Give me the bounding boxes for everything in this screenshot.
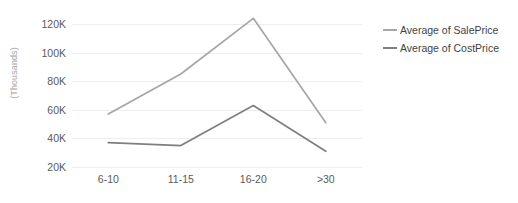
plot-area: (Thousands) 120K100K80K60K40K20K 6-1011-… — [0, 0, 370, 203]
series-line — [108, 106, 325, 152]
x-axis-tick-label: 16-20 — [240, 173, 267, 185]
legend-swatch-saleprice — [383, 29, 397, 31]
line-chart: (Thousands) 120K100K80K60K40K20K 6-1011-… — [0, 0, 518, 203]
legend-label-costprice: Average of CostPrice — [400, 42, 499, 54]
x-axis-tick-label: 11-15 — [168, 173, 194, 185]
chart-legend: Average of SalePrice Average of CostPric… — [383, 22, 518, 58]
legend-swatch-costprice — [383, 47, 397, 49]
legend-item-costprice[interactable]: Average of CostPrice — [383, 40, 518, 56]
series-line — [108, 18, 325, 122]
x-axis-tick-label: >30 — [317, 173, 335, 185]
legend-label-saleprice: Average of SalePrice — [400, 24, 498, 36]
legend-item-saleprice[interactable]: Average of SalePrice — [383, 22, 518, 38]
series-paths — [108, 18, 325, 151]
x-axis-tick-label: 6-10 — [98, 173, 119, 185]
